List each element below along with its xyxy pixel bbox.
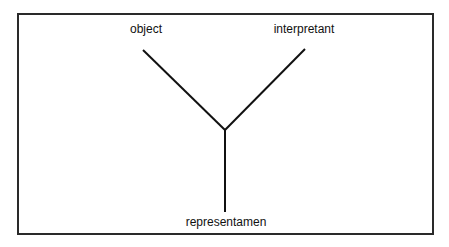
triad-lines (0, 0, 449, 247)
representamen-label: representamen (186, 215, 267, 229)
interpretant-label: interpretant (274, 22, 335, 36)
object-branch (143, 50, 225, 130)
object-label: object (130, 22, 162, 36)
interpretant-branch (225, 49, 305, 130)
